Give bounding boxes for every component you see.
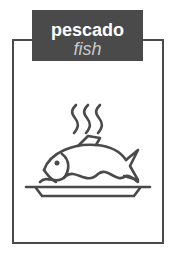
- label-box: pescado fish: [32, 10, 143, 61]
- label-spanish: pescado: [32, 21, 143, 39]
- steam-icon: [72, 105, 102, 133]
- label-english: fish: [32, 40, 143, 58]
- fish-icon: [40, 136, 138, 182]
- plate-icon: [26, 187, 150, 196]
